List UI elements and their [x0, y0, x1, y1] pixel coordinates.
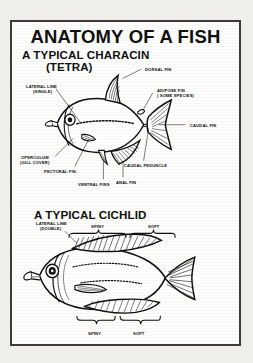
label-soft-anal: SOFT	[133, 331, 145, 336]
label-lateral-line-double-line2: (DOUBLE)	[40, 226, 61, 231]
label-spiny-dorsal: SPINY	[91, 224, 104, 229]
label-operculum-line2: (GILL COVER)	[20, 160, 49, 165]
label-soft-dorsal: SOFT	[148, 224, 160, 229]
label-caudal-fin: CAUDAL FIN	[190, 123, 216, 128]
label-anal-fin: ANAL FIN	[116, 180, 136, 185]
label-lateral-line-single-line2: (SINGLE)	[33, 89, 52, 94]
cichlid-illustration	[24, 229, 195, 324]
label-adipose-fin-line2: ( SOME SPECIES)	[157, 93, 194, 98]
poster-stage: ANATOMY OF A FISH A TYPICAL CHARACIN (TE…	[12, 22, 239, 344]
label-ventral-fins: VENTRAL FINS	[78, 182, 110, 187]
label-spiny-anal: SPINY	[88, 331, 101, 336]
label-dorsal-fin: DORSAL FIN	[145, 67, 171, 72]
label-caudal-peduncle: CAUDAL PEDUNCLE	[124, 163, 167, 168]
anatomy-poster: ANATOMY OF A FISH A TYPICAL CHARACIN (TE…	[10, 20, 241, 346]
label-pectoral-fin: PECTORAL FIN	[44, 169, 76, 174]
